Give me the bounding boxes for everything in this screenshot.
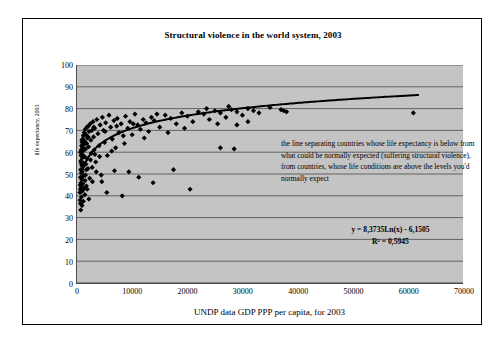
equation-line: y = 8,3735Ln(x) - 6,1505 <box>313 224 468 236</box>
trendline-equation: y = 8,3735Ln(x) - 6,1505 R² = 0,5945 <box>313 224 468 248</box>
y-axis-tick-label: 20 <box>65 236 73 245</box>
x-axis-tick-label: 50000 <box>343 287 363 296</box>
data-point <box>121 133 126 138</box>
data-point <box>174 121 179 126</box>
y-axis-tick-label: 50 <box>65 170 73 179</box>
data-point <box>245 119 250 124</box>
data-point <box>95 131 100 136</box>
data-point <box>108 125 113 130</box>
data-point <box>179 110 184 115</box>
data-point <box>157 125 162 130</box>
y-axis-tick-label: 40 <box>65 192 73 201</box>
data-point <box>223 115 228 120</box>
data-point <box>99 179 104 184</box>
data-point <box>232 146 237 151</box>
data-point <box>114 123 119 128</box>
x-axis-tick-label: 60000 <box>399 287 419 296</box>
data-point <box>78 207 83 212</box>
data-point <box>163 113 168 118</box>
data-point <box>123 114 128 119</box>
x-axis-title: UNDP data GDP PPP per capita, for 2003 <box>76 307 463 317</box>
data-point <box>113 145 118 150</box>
data-point <box>122 141 127 146</box>
data-point <box>138 127 143 132</box>
r-squared-line: R² = 0,5945 <box>313 236 468 248</box>
y-axis-tick-label: 0 <box>69 280 73 289</box>
x-axis-tick-label: 70000 <box>454 287 474 296</box>
data-point <box>411 110 416 115</box>
data-point <box>105 153 110 158</box>
x-axis-tick-label: 10000 <box>122 287 142 296</box>
data-point <box>90 165 95 170</box>
data-point <box>119 121 124 126</box>
data-point <box>154 111 159 116</box>
y-axis-title: life expectancy, 2003 <box>34 70 40 190</box>
data-point <box>136 175 141 180</box>
data-point <box>100 115 105 120</box>
x-axis-tick-label: 20000 <box>178 287 198 296</box>
data-point <box>171 167 176 172</box>
data-point <box>151 180 156 185</box>
data-point <box>112 168 117 173</box>
y-axis-tick-label: 100 <box>61 61 73 70</box>
data-point <box>86 196 91 201</box>
data-point <box>98 122 103 127</box>
data-point <box>132 111 137 116</box>
chart-page: Structural violence in the world system,… <box>0 0 504 345</box>
data-point <box>234 122 239 127</box>
data-point <box>215 121 220 126</box>
data-point <box>187 187 192 192</box>
data-point <box>207 117 212 122</box>
y-axis-tick-label: 30 <box>65 214 73 223</box>
data-point <box>234 109 239 114</box>
chart-frame: Structural violence in the world system,… <box>22 18 482 325</box>
data-point <box>103 120 108 125</box>
data-point <box>240 113 245 118</box>
y-axis-tick-label: 60 <box>65 148 73 157</box>
data-point <box>97 154 102 159</box>
data-point <box>204 106 209 111</box>
data-point <box>130 132 135 137</box>
chart-title: Structural violence in the world system,… <box>23 30 483 40</box>
data-point <box>190 119 195 124</box>
data-point <box>109 149 114 154</box>
y-axis-tick-label: 90 <box>65 82 73 91</box>
x-axis-tick-label: 30000 <box>233 287 253 296</box>
data-point <box>146 129 151 134</box>
x-axis-tick-label: 0 <box>75 287 79 296</box>
data-point <box>99 173 104 178</box>
annotation-note: the line separating countries whose life… <box>281 138 477 184</box>
data-point <box>256 110 261 115</box>
data-point <box>106 113 111 118</box>
data-point <box>218 145 223 150</box>
y-axis-tick-label: 10 <box>65 258 73 267</box>
data-point <box>120 193 125 198</box>
data-point <box>93 159 98 164</box>
data-point <box>104 190 109 195</box>
y-axis-tick-label: 70 <box>65 126 73 135</box>
x-axis-tick-label: 40000 <box>288 287 308 296</box>
y-axis-tick-label: 80 <box>65 104 73 113</box>
data-point <box>142 135 147 140</box>
